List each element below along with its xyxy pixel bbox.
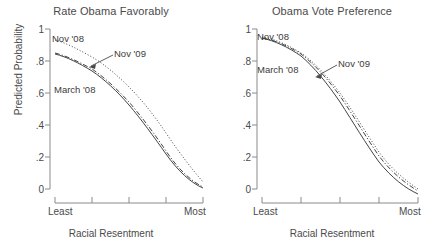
figure-container: Rate Obama Favorably Predicted Probabili… <box>0 0 443 250</box>
series-line-march-08 <box>55 54 203 188</box>
series-line-nov-09 <box>262 38 418 191</box>
chart-panel-rate-obama-favorably: Rate Obama Favorably Predicted Probabili… <box>0 0 222 250</box>
plot-area <box>0 0 222 250</box>
series-line-nov-08 <box>262 37 418 189</box>
annotation-arrow-line-nov-09 <box>317 65 337 76</box>
chart-panel-obama-vote-preference: Obama Vote Preference 1 .8 .6 .4 .2 0 Le… <box>221 0 443 250</box>
annotation-arrow-line-nov-09 <box>91 55 113 66</box>
series-line-nov-09 <box>55 53 203 187</box>
plot-area <box>221 0 443 250</box>
series-line-march-08 <box>262 38 418 194</box>
